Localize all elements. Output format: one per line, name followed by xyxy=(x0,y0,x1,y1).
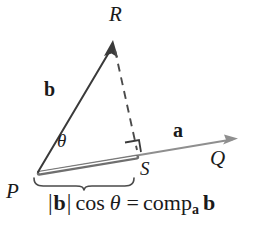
vector-projection-figure: R Q P S b a θ | b | cos θ = comp a b xyxy=(0,0,253,229)
abs-bar-close: | xyxy=(66,190,73,216)
equation-cos: cos xyxy=(72,190,107,216)
brace-ps-icon xyxy=(34,178,134,190)
equation-comp-operand: b xyxy=(199,190,215,216)
point-label-p: P xyxy=(6,181,19,202)
projection-segment-inner-highlight xyxy=(40,157,136,173)
ray-pq-arrowhead-icon xyxy=(223,135,238,145)
right-angle-marker-icon xyxy=(125,140,141,152)
point-label-s: S xyxy=(140,159,150,178)
equation-comp-subscript: a xyxy=(192,202,199,218)
point-label-q: Q xyxy=(210,148,225,169)
projection-equation: | b | cos θ = comp a b xyxy=(47,190,215,216)
equation-comp: comp xyxy=(143,190,192,216)
vector-label-b: b xyxy=(44,79,55,99)
vector-b-line xyxy=(38,49,111,172)
vector-label-a: a xyxy=(173,120,183,140)
abs-bar-open: | xyxy=(47,190,54,216)
vector-b-arrow xyxy=(38,40,118,172)
point-label-r: R xyxy=(109,4,122,25)
equation-equals: = xyxy=(123,190,143,216)
angle-label-theta: θ xyxy=(57,131,66,150)
equation-b-magnitude: b xyxy=(54,190,66,216)
projection-segment-ps xyxy=(39,157,137,174)
dashed-perpendicular-rs xyxy=(115,50,137,150)
equation-theta: θ xyxy=(108,190,123,216)
